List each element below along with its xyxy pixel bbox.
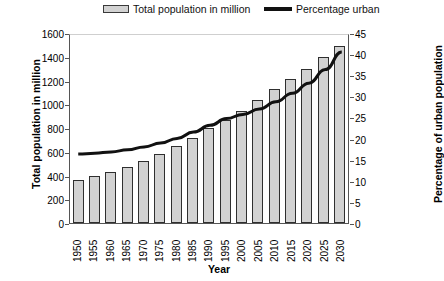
legend-item-percentage-urban: Percentage urban (264, 4, 379, 14)
y-tickmark-10 (350, 182, 354, 183)
y-tick-200: 200 (47, 195, 64, 206)
x-tick-1970: 1970 (138, 228, 149, 262)
x-tick-2015: 2015 (286, 228, 297, 262)
x-tick-2000: 2000 (236, 228, 247, 262)
y-axis-right-title: Percentage of urban population (432, 34, 444, 214)
line-swatch-icon (264, 7, 292, 11)
x-tick-1990: 1990 (203, 228, 214, 262)
x-tick-2020: 2020 (302, 228, 313, 262)
y-tick-20: 20 (355, 134, 366, 145)
y-tick-800: 800 (47, 124, 64, 135)
x-tick-1965: 1965 (121, 228, 132, 262)
y-tick-600: 600 (47, 147, 64, 158)
y-tickmark-35 (350, 76, 354, 77)
y-tick-1200: 1200 (42, 76, 64, 87)
x-tick-1960: 1960 (105, 228, 116, 262)
y-tick-5: 5 (355, 197, 361, 208)
legend-item-total-population: Total population in million (103, 4, 250, 14)
y-tickmark-15 (350, 161, 354, 162)
x-tick-1995: 1995 (220, 228, 231, 262)
y-tick-30: 30 (355, 92, 366, 103)
plot-area (69, 34, 349, 224)
y-tick-35: 35 (355, 71, 366, 82)
y-axis-left-ticks: 02004006008001000120014001600 (34, 34, 64, 224)
x-axis-title: Year (0, 263, 438, 275)
y-tick-0: 0 (58, 219, 64, 230)
y-tickmark-25 (350, 118, 354, 119)
x-tick-2005: 2005 (253, 228, 264, 262)
y-tick-1400: 1400 (42, 52, 64, 63)
y-tickmark-5 (350, 203, 354, 204)
y-axis-right-ticks: 051015202530354045 (355, 34, 381, 224)
x-tick-2010: 2010 (269, 228, 280, 262)
x-tick-1975: 1975 (154, 228, 165, 262)
bar-swatch-icon (103, 5, 129, 13)
y-tickmark-20 (350, 140, 354, 141)
y-tickmark-40 (350, 55, 354, 56)
y-tick-0: 0 (355, 219, 361, 230)
x-tick-1980: 1980 (171, 228, 182, 262)
y-tick-400: 400 (47, 171, 64, 182)
y-tick-25: 25 (355, 113, 366, 124)
chart-legend: Total population in million Percentage u… (0, 4, 438, 20)
x-axis-ticks: 1950195519601965197019751980198519901995… (69, 228, 349, 262)
y-tickmark-45 (350, 34, 354, 35)
x-tick-1955: 1955 (88, 228, 99, 262)
y-tickmark-30 (350, 97, 354, 98)
x-tick-1950: 1950 (72, 228, 83, 262)
percentage-urban-line (78, 52, 342, 154)
x-tick-2025: 2025 (319, 228, 330, 262)
x-tick-1985: 1985 (187, 228, 198, 262)
y-tick-15: 15 (355, 155, 366, 166)
y-tickmark-0 (65, 224, 69, 225)
line-series (70, 35, 350, 225)
y-tickmark-0 (350, 224, 354, 225)
y-tick-10: 10 (355, 176, 366, 187)
y-tick-45: 45 (355, 29, 366, 40)
legend-label-total-population: Total population in million (133, 4, 250, 14)
y-tick-1000: 1000 (42, 100, 64, 111)
x-tick-2030: 2030 (335, 228, 346, 262)
y-tick-40: 40 (355, 50, 366, 61)
legend-label-percentage-urban: Percentage urban (296, 4, 379, 14)
y-tick-1600: 1600 (42, 29, 64, 40)
